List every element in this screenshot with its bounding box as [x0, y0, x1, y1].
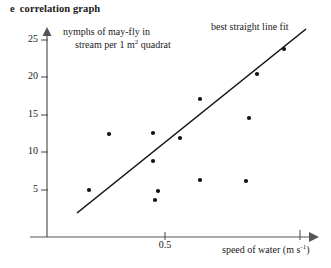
- data-point: [87, 188, 91, 192]
- correlation-graph-figure: ecorrelation graph: [0, 0, 331, 268]
- y-axis-label-line1: nymphs of may-fly in: [63, 26, 171, 39]
- y-tick-label-20: 20: [18, 70, 38, 81]
- y-axis-arrow-icon: [43, 27, 52, 36]
- x-axis-arrow-icon: [309, 232, 319, 242]
- data-point: [255, 72, 259, 76]
- y-tick-label-25: 25: [18, 33, 38, 44]
- data-point: [151, 159, 155, 163]
- data-point: [247, 116, 251, 120]
- data-point: [282, 47, 286, 51]
- data-point: [156, 189, 160, 193]
- y-axis-label-line2-post: quadrat: [138, 39, 171, 50]
- data-point: [244, 179, 248, 183]
- x-tick-marks: [165, 230, 300, 240]
- data-point: [107, 132, 111, 136]
- best-fit-line: [77, 29, 306, 213]
- data-point: [198, 97, 202, 101]
- data-point: [153, 198, 157, 202]
- y-axis-label-line2-pre: stream per 1 m: [75, 39, 135, 50]
- y-axis-label-line2: stream per 1 m2 quadrat: [63, 39, 171, 52]
- y-axis-label: nymphs of may-fly in stream per 1 m2 qua…: [63, 26, 171, 51]
- x-axis-label-tail: ): [306, 244, 309, 255]
- x-axis-label: speed of water (m s-1): [222, 244, 310, 255]
- y-tick-label-15: 15: [18, 108, 38, 119]
- y-tick-label-5: 5: [18, 183, 38, 194]
- x-axis-label-main: speed of water (m s: [222, 244, 300, 255]
- y-tick-label-10: 10: [18, 145, 38, 156]
- data-point: [198, 178, 202, 182]
- best-fit-line-annotation: best straight line fit: [211, 21, 289, 32]
- x-tick-label-0-5: 0.5: [150, 239, 180, 250]
- data-point: [151, 131, 155, 135]
- data-point: [178, 136, 182, 140]
